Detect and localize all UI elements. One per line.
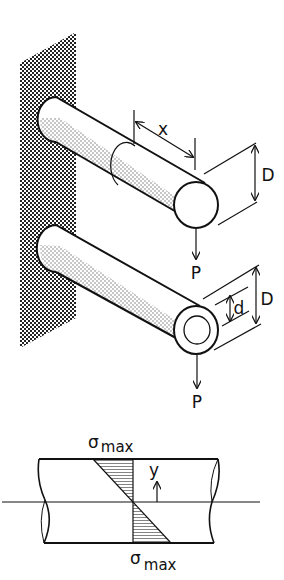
top-beam-end-face bbox=[174, 182, 218, 228]
bottom-beam-inner-bore bbox=[184, 316, 210, 344]
bottom-load-label: P bbox=[192, 392, 202, 412]
y-axis-label: y bbox=[149, 460, 159, 480]
top-diameter-label: D bbox=[261, 165, 274, 185]
top-sigma-max-label: σmax bbox=[88, 432, 134, 456]
length-label: x bbox=[158, 119, 168, 139]
fixed-wall bbox=[20, 32, 76, 348]
inner-diameter-dimension: d bbox=[215, 287, 249, 326]
stress-distribution-diagram: y σmax σmax bbox=[2, 432, 260, 574]
bottom-sigma-max-label: σmax bbox=[130, 548, 177, 574]
outer-diameter-label: D bbox=[260, 289, 273, 309]
diagram-canvas: x D P d D P bbox=[0, 0, 284, 580]
top-load-label: P bbox=[191, 263, 201, 283]
bottom-load: P bbox=[192, 355, 202, 412]
top-load: P bbox=[191, 229, 201, 283]
inner-diameter-label: d bbox=[234, 298, 245, 318]
